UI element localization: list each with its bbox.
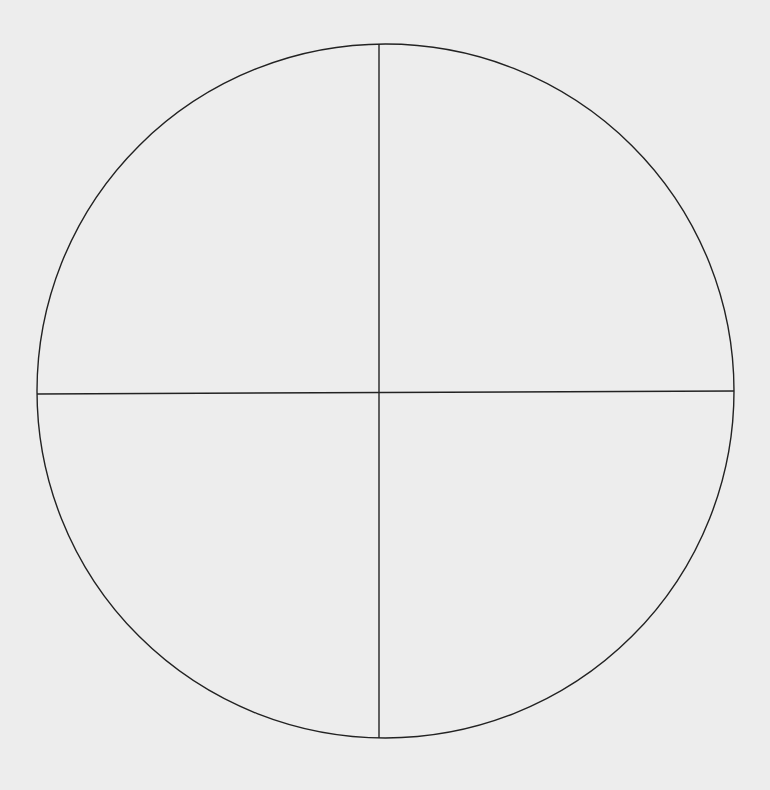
horizontal-divider-line (37, 391, 734, 394)
diagram-canvas (0, 0, 770, 790)
quartered-circle-diagram (0, 0, 770, 790)
